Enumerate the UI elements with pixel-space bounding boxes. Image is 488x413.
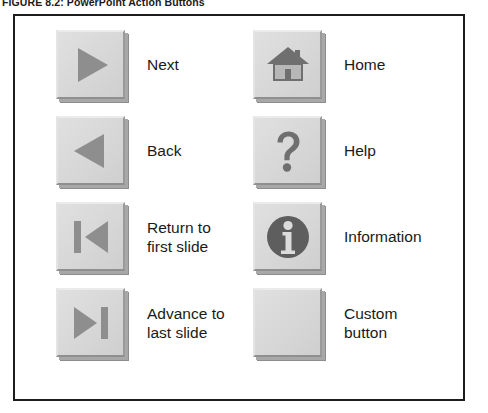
- action-button-help[interactable]: [253, 116, 322, 185]
- figure-frame: Next Back: [13, 14, 465, 401]
- triangle-left-icon: [58, 118, 123, 183]
- triangle-right-icon: [58, 32, 123, 97]
- information-circle-icon: [255, 204, 320, 269]
- action-button-last-slide[interactable]: [56, 288, 125, 357]
- action-button-first-slide[interactable]: [56, 202, 125, 271]
- action-button-grid: Next Back: [15, 16, 463, 399]
- action-button-information[interactable]: [253, 202, 322, 271]
- action-button-label-information: Information: [344, 227, 422, 246]
- action-button-entry-information[interactable]: Information: [253, 202, 422, 271]
- action-button-label-home: Home: [344, 55, 385, 74]
- action-button-home[interactable]: [253, 30, 322, 99]
- skip-to-start-icon: [58, 204, 123, 269]
- action-button-entry-last-slide[interactable]: Advance to last slide: [56, 288, 225, 357]
- house-icon: [255, 32, 320, 97]
- action-button-entry-home[interactable]: Home: [253, 30, 385, 99]
- figure-caption-label: FIGURE 8.2:: [2, 0, 64, 8]
- action-button-label-help: Help: [344, 141, 376, 160]
- action-button-label-last-slide: Advance to last slide: [147, 304, 225, 342]
- action-button-label-next: Next: [147, 55, 179, 74]
- action-button-entry-next[interactable]: Next: [56, 30, 179, 99]
- action-button-entry-first-slide[interactable]: Return to first slide: [56, 202, 211, 271]
- action-button-label-custom: Custom button: [344, 304, 397, 342]
- action-button-label-back: Back: [147, 141, 181, 160]
- skip-to-end-icon: [58, 290, 123, 355]
- action-button-back[interactable]: [56, 116, 125, 185]
- action-button-custom[interactable]: [253, 288, 322, 357]
- figure-caption: FIGURE 8.2:PowerPoint Action Buttons: [2, 0, 205, 10]
- question-mark-icon: [255, 118, 320, 183]
- action-button-entry-help[interactable]: Help: [253, 116, 376, 185]
- action-button-next[interactable]: [56, 30, 125, 99]
- action-button-entry-back[interactable]: Back: [56, 116, 181, 185]
- action-button-entry-custom[interactable]: Custom button: [253, 288, 397, 357]
- action-button-label-first-slide: Return to first slide: [147, 218, 211, 256]
- blank-icon: [255, 290, 320, 355]
- figure-caption-title: PowerPoint Action Buttons: [67, 0, 205, 8]
